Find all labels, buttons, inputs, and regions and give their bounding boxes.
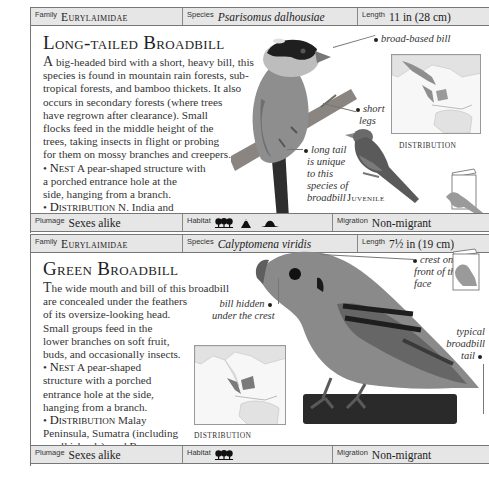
length-cell: Length 11 in (28 cm): [358, 8, 489, 25]
leader-line: [483, 364, 484, 414]
drop-initial: T: [43, 280, 52, 295]
forest-icon: [215, 218, 233, 228]
field-guide-book-icon: [444, 167, 489, 219]
map-label: DISTRIBUTION: [399, 141, 456, 150]
species-title: Long-tailed Broadbill: [43, 32, 224, 54]
migration-cell: Migration Non-migrant: [333, 446, 489, 463]
annotation-tail: long tail is unique to this species of b…: [301, 144, 348, 204]
field-guide-book-icon: [449, 248, 485, 294]
species-label: Species: [187, 237, 214, 246]
leader-line: [287, 149, 303, 150]
species-title: Green Broadbill: [43, 258, 178, 280]
species-value: Psarisomus dalhousiae: [218, 11, 325, 23]
family-label: Family: [35, 237, 57, 246]
distribution-map: [391, 54, 481, 134]
habitat-cell: Habitat: [183, 446, 333, 463]
juvenile-label: Juvenile: [347, 192, 385, 203]
length-value: 11 in (28 cm): [389, 11, 451, 23]
length-label: Length: [362, 237, 385, 246]
species-label: Species: [187, 10, 214, 19]
habitat-label: Habitat: [187, 216, 211, 225]
plumage-label: Plumage: [35, 448, 65, 457]
family-value: Eurylaimidae: [61, 11, 128, 23]
header-bar: Family Eurylaimidae Species Psarisomus d…: [31, 7, 489, 26]
annotation-tail: typical broadbill tail: [433, 326, 485, 362]
map-label: DISTRIBUTION: [194, 431, 251, 440]
migration-value: Non-migrant: [372, 449, 431, 461]
annotation-bill-hidden: bill hidden under the crest: [212, 298, 275, 322]
mountain-icon: [241, 218, 251, 228]
plumage-value: Sexes alike: [69, 217, 121, 229]
hill-icon: [261, 219, 279, 227]
family-cell: Family Eurylaimidae: [31, 235, 183, 252]
footer-bar: Plumage Sexes alike Habitat Migration No…: [31, 445, 489, 464]
plumage-value: Sexes alike: [69, 449, 121, 461]
family-cell: Family Eurylaimidae: [31, 8, 183, 25]
species-card-green-broadbill: Family Eurylaimidae Species Calyptomena …: [30, 234, 489, 466]
family-value: Eurylaimidae: [61, 238, 128, 250]
family-label: Family: [35, 10, 57, 19]
drop-initial: A: [43, 54, 53, 69]
migration-value: Non-migrant: [372, 217, 431, 229]
forest-icon: [215, 450, 233, 460]
species-card-long-tailed-broadbill: Family Eurylaimidae Species Psarisomus d…: [30, 7, 489, 233]
migration-cell: Migration Non-migrant: [333, 214, 489, 231]
annotation-legs: shortlegs: [353, 103, 385, 127]
plumage-cell: Plumage Sexes alike: [31, 446, 183, 463]
habitat-label: Habitat: [187, 448, 211, 457]
migration-label: Migration: [337, 216, 368, 225]
distribution-map: [194, 345, 286, 425]
plumage-label: Plumage: [35, 216, 65, 225]
plumage-cell: Plumage Sexes alike: [31, 214, 183, 231]
footer-bar: Plumage Sexes alike Habitat Migration No…: [31, 213, 489, 232]
species-cell: Species Psarisomus dalhousiae: [183, 8, 358, 25]
annotation-bill: broad-based bill: [371, 33, 450, 45]
leader-line: [278, 278, 279, 304]
length-label: Length: [362, 10, 385, 19]
habitat-cell: Habitat: [183, 214, 333, 231]
migration-label: Migration: [337, 448, 368, 457]
